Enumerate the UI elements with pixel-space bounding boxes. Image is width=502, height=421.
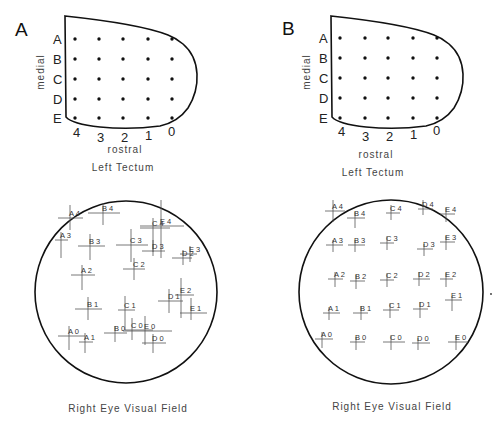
mark-label: D 3	[152, 242, 164, 251]
panel-b: B ABCDE43210medialrostralLeft Tectum A 4…	[282, 16, 483, 412]
recording-site-dot	[363, 56, 366, 59]
mark-label: C 1	[389, 301, 401, 310]
recording-site-dot	[146, 37, 149, 40]
recording-site-dot	[411, 36, 414, 39]
receptive-field-mark: C 2	[380, 271, 398, 287]
rostral-axis-label: rostral	[108, 144, 143, 155]
recording-site-dot	[338, 56, 341, 59]
row-label: C	[319, 71, 328, 86]
mark-label: A 2	[81, 266, 92, 275]
recording-site-dot	[121, 116, 124, 119]
mark-label: B 4	[102, 204, 113, 213]
left-tectum-diagram: ABCDE43210medialrostralLeft Tectum	[35, 16, 197, 173]
mark-label: A 3	[60, 231, 71, 240]
receptive-field-mark: D 4	[418, 200, 434, 215]
visual-field-caption: Right Eye Visual Field	[68, 403, 188, 414]
mark-label: B 1	[360, 304, 371, 313]
receptive-field-mark: A 0	[315, 330, 333, 348]
left-tectum-diagram: ABCDE43210medialrostralLeft Tectum	[301, 16, 463, 178]
mark-label: E 4	[445, 205, 456, 214]
column-label: 4	[338, 124, 345, 139]
recording-site-dot	[411, 56, 414, 59]
recording-site-dot	[146, 116, 149, 119]
recording-site-dot	[121, 37, 124, 40]
right-eye-visual-field: A 4B 4A 3B 3C 3C 4E 4D 3D 2E 3A 2C 2B 1C…	[35, 200, 217, 414]
recording-site-dot	[386, 96, 389, 99]
recording-site-dot	[435, 96, 438, 99]
right-eye-visual-field: A 4B 4C 4D 4E 4A 3B 3C 3D 3E 3A 2B 2C 2D…	[299, 200, 483, 412]
recording-site-dot	[338, 116, 341, 119]
panel-letter: B	[282, 18, 295, 39]
mark-label: A 1	[328, 304, 339, 313]
mark-label: A 2	[334, 270, 345, 279]
medial-axis-label: medial	[301, 54, 312, 89]
mark-label: E 1	[451, 291, 462, 300]
recording-site-dot	[411, 96, 414, 99]
recording-site-dot	[170, 37, 173, 40]
mark-label: C 3	[386, 234, 398, 243]
recording-site-dot	[386, 36, 389, 39]
mark-label: A 0	[321, 330, 332, 339]
mark-label: B 3	[89, 237, 100, 246]
row-label: D	[319, 91, 328, 106]
tectum-title: Left Tectum	[342, 167, 405, 178]
recording-site-dot	[73, 77, 76, 80]
receptive-field-mark: B 0	[350, 333, 366, 350]
receptive-field-mark: D 0	[412, 334, 430, 350]
receptive-field-mark: B 1	[353, 304, 371, 320]
mark-label: B 2	[355, 272, 366, 281]
mark-label: D 0	[152, 334, 164, 343]
row-label: B	[319, 51, 328, 66]
column-label: 1	[410, 127, 417, 142]
tectum-outline	[65, 16, 197, 128]
receptive-field-mark: D 3	[142, 240, 165, 256]
receptive-field-mark: B 4	[88, 203, 120, 225]
receptive-field-mark: B 4	[347, 209, 365, 228]
mark-label: B 1	[87, 300, 98, 309]
mark-label: B 0	[114, 324, 125, 333]
receptive-field-mark: C 1	[383, 301, 401, 318]
panel-a: A ABCDE43210medialrostralLeft Tectum A 4…	[15, 16, 217, 414]
receptive-field-mark: A 2	[71, 265, 95, 290]
panel-letter: A	[15, 19, 28, 40]
receptive-field-mark: D 2	[413, 270, 430, 286]
receptive-field-mark: A 3	[55, 231, 71, 258]
receptive-field-mark: C 0	[383, 333, 405, 350]
row-label: A	[319, 31, 328, 46]
mark-label: D 1	[419, 300, 431, 309]
receptive-field-mark: B 0	[104, 324, 127, 342]
recording-site-dot	[386, 56, 389, 59]
receptive-field-mark: E 1	[445, 291, 462, 311]
row-label: E	[53, 111, 62, 126]
mark-label: B 3	[354, 236, 365, 245]
receptive-field-mark: B 2	[350, 272, 366, 289]
receptive-field-mark: D 3	[417, 240, 435, 256]
recording-site-dot	[363, 76, 366, 79]
tectum-title: Left Tectum	[92, 162, 155, 173]
receptive-field-mark: C 3	[116, 229, 148, 262]
recording-site-dot	[386, 116, 389, 119]
column-label: 3	[362, 129, 369, 144]
column-label: 1	[145, 128, 152, 143]
mark-label: C 0	[390, 333, 402, 342]
mark-label: C 2	[133, 260, 145, 269]
recording-site-dot	[435, 56, 438, 59]
mark-label: C 0	[131, 321, 143, 330]
recording-site-dot	[338, 76, 341, 79]
recording-site-dot	[97, 77, 100, 80]
mark-label: E 3	[189, 245, 200, 254]
recording-site-dot	[73, 57, 76, 60]
row-label: A	[53, 32, 62, 47]
mark-label: C 2	[386, 271, 398, 280]
recording-site-dot	[121, 77, 124, 80]
mark-label: B 4	[354, 209, 365, 218]
recording-site-dot	[97, 97, 100, 100]
mark-label: E 3	[445, 233, 456, 242]
receptive-field-mark: D 0	[142, 334, 166, 353]
mark-label: A 3	[332, 236, 343, 245]
column-label: 4	[73, 125, 80, 140]
row-label: D	[53, 92, 62, 107]
mark-label: E 0	[144, 322, 155, 331]
receptive-field-mark: A 2	[328, 270, 345, 287]
recording-site-dot	[97, 116, 100, 119]
